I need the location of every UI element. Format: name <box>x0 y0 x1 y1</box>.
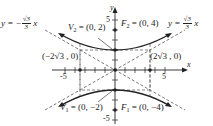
y-tick-5: 5 <box>106 16 110 24</box>
focus-f2 <box>113 28 117 32</box>
y-axis-label: y <box>110 4 114 12</box>
focus-f1 <box>113 108 117 112</box>
vertex-v1 <box>113 88 117 92</box>
x-axis-label: x <box>187 61 191 69</box>
x-tick-neg5: -5 <box>60 73 67 81</box>
f1-label: F1 = (0, −4) <box>121 103 164 113</box>
y-tick-neg5: -5 <box>103 115 110 123</box>
point-left <box>78 68 82 72</box>
point-right-label: (2√3 , 0) <box>150 52 181 61</box>
f2-label: F2 = (0, 4) <box>121 19 159 29</box>
v1-label: V1 = (0, −2) <box>60 103 103 113</box>
asymptote-left-label: y = −√33 x <box>1 16 37 31</box>
asymptote-right-label: y = √33 x <box>168 16 198 31</box>
origin <box>113 68 117 72</box>
v2-label: V2 = (0, 2) <box>68 23 106 33</box>
vertex-v2 <box>113 48 117 52</box>
point-left-label: (−2√3 , 0) <box>42 52 78 61</box>
point-right <box>148 68 152 72</box>
x-tick-5: 5 <box>162 73 166 81</box>
